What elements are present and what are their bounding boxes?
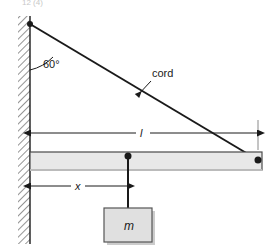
- cord-beam-anchor-point: [255, 157, 262, 164]
- cord-wall-anchor-point: [27, 21, 33, 27]
- hanging-mass-block: m: [104, 208, 155, 245]
- horizontal-beam: [30, 152, 262, 170]
- distance-label: x: [74, 180, 81, 192]
- wall-hatched: [18, 16, 30, 244]
- cropped-header-text: 12 (4): [22, 0, 43, 7]
- cord-label: cord: [152, 67, 173, 79]
- mass-label: m: [124, 219, 134, 233]
- physics-diagram-figure: 12 (4) 60° cord l: [0, 0, 278, 250]
- dimension-length-l: l: [31, 120, 258, 150]
- angle-label: 60°: [43, 58, 60, 70]
- dimension-distance-x: x: [31, 172, 128, 200]
